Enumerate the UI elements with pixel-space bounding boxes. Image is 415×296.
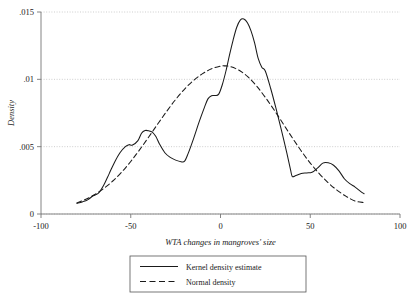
legend: Kernel density estimate Normal density [130, 256, 306, 292]
x-tick-label: 50 [306, 221, 315, 231]
legend-label-kernel-density-estimate: Kernel density estimate [186, 263, 262, 272]
figure-background [0, 0, 415, 296]
legend-label-normal-density: Normal density [186, 278, 236, 287]
y-tick-label: 0 [30, 209, 34, 219]
y-axis-title: Density [6, 100, 16, 127]
density-plot-figure: 0.005.01.015 -100-50050100 WTA changes i… [0, 0, 415, 296]
x-axis-title: WTA changes in mangroves' size [165, 237, 276, 247]
x-tick-label: 100 [394, 221, 407, 231]
x-tick-label: -100 [33, 221, 49, 231]
chart-canvas: 0.005.01.015 -100-50050100 WTA changes i… [0, 0, 415, 296]
y-tick-label: .01 [23, 74, 34, 84]
x-tick-label: -50 [125, 221, 136, 231]
legend-box [130, 256, 306, 292]
x-tick-label: 0 [218, 221, 222, 231]
y-tick-label: .015 [19, 7, 34, 17]
y-tick-label: .005 [19, 142, 34, 152]
